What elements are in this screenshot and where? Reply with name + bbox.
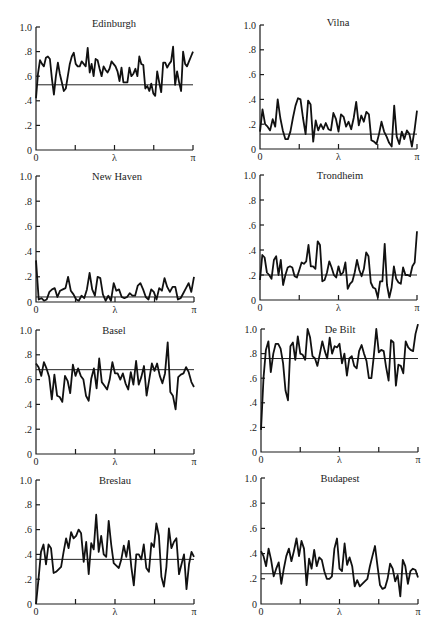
y-tick-label: .4 xyxy=(250,397,258,408)
y-tick-label: .2 xyxy=(250,573,258,584)
y-tick-label: .6 xyxy=(25,221,33,232)
x-tick-label: π xyxy=(191,304,196,315)
panel-new-haven: New Haven 0.2.4.6.81.00λπ xyxy=(20,171,197,316)
x-tick-label: 0 xyxy=(258,151,263,162)
y-tick-label: .4 xyxy=(249,94,257,105)
x-tick-label: 0 xyxy=(34,606,39,617)
data-series-line xyxy=(36,47,193,99)
y-tick-label: .4 xyxy=(25,399,33,410)
x-tick-label: λ xyxy=(337,454,342,465)
y-tick-label: .4 xyxy=(25,95,33,106)
y-tick-label: 1.0 xyxy=(244,20,257,31)
y-tick-label: .2 xyxy=(25,120,33,131)
y-tick-label: 0 xyxy=(27,599,32,610)
y-tick-label: 1.0 xyxy=(245,473,258,484)
y-tick-label: .6 xyxy=(249,69,257,80)
panel-basel: Basel 0.2.4.6.81.00λπ xyxy=(20,325,197,468)
x-tick-label: 0 xyxy=(258,302,263,313)
panel-title: Breslau xyxy=(99,475,132,486)
x-tick-label: 0 xyxy=(34,152,39,163)
y-tick-label: 0 xyxy=(252,447,257,458)
x-tick-label: λ xyxy=(337,606,342,617)
y-tick-label: .4 xyxy=(25,246,33,257)
panel-budapest: Budapest 0.2.4.6.81.00λπ xyxy=(245,473,421,618)
y-tick-label: .8 xyxy=(249,44,257,55)
y-tick-label: 1.0 xyxy=(244,170,257,181)
panel-title: Vilna xyxy=(327,17,350,28)
y-tick-label: .2 xyxy=(249,119,257,130)
data-series-line xyxy=(261,324,418,430)
x-tick-label: π xyxy=(415,606,420,617)
x-tick-label: π xyxy=(414,302,419,313)
x-tick-label: 0 xyxy=(34,456,39,467)
data-series-line xyxy=(260,98,417,146)
y-tick-label: .8 xyxy=(250,348,258,359)
y-tick-label: 0 xyxy=(252,599,257,610)
y-tick-label: .8 xyxy=(25,196,33,207)
axes xyxy=(261,478,418,604)
y-tick-label: 1.0 xyxy=(20,475,33,486)
x-tick-label: λ xyxy=(336,302,341,313)
data-series-line xyxy=(260,231,417,297)
x-tick-label: π xyxy=(191,456,196,467)
data-series-line xyxy=(36,342,194,409)
panel-title: Edinburgh xyxy=(92,18,137,29)
data-series-line xyxy=(36,260,194,300)
y-tick-label: 1.0 xyxy=(245,324,258,335)
y-tick-label: .2 xyxy=(250,422,258,433)
data-series-line xyxy=(261,539,418,597)
y-tick-label: .2 xyxy=(25,424,33,435)
y-tick-label: 0 xyxy=(251,144,256,155)
y-tick-label: .6 xyxy=(249,220,257,231)
y-tick-label: .6 xyxy=(250,523,258,534)
x-tick-label: 0 xyxy=(259,606,264,617)
panel-title: Trondheim xyxy=(317,170,363,181)
y-tick-label: .6 xyxy=(25,374,33,385)
x-tick-label: λ xyxy=(113,456,118,467)
y-tick-label: 1.0 xyxy=(20,171,33,182)
panel-breslau: Breslau 0.2.4.6.81.00λπ xyxy=(20,475,197,618)
y-tick-label: 0 xyxy=(27,449,32,460)
x-tick-label: π xyxy=(414,151,419,162)
y-tick-label: .4 xyxy=(250,548,258,559)
x-tick-label: 0 xyxy=(34,304,39,315)
panel-title: Budapest xyxy=(320,473,359,484)
y-tick-label: .8 xyxy=(25,349,33,360)
y-tick-label: 0 xyxy=(251,295,256,306)
panel-trondheim: Trondheim 0.2.4.6.81.00λπ xyxy=(244,170,420,314)
panel-de-bilt: De Bilt 0.2.4.6.81.00λπ xyxy=(245,324,421,466)
y-tick-label: 1.0 xyxy=(20,22,33,33)
y-tick-label: .2 xyxy=(25,574,33,585)
x-tick-label: λ xyxy=(336,151,341,162)
x-tick-label: λ xyxy=(113,304,118,315)
y-tick-label: .8 xyxy=(25,499,33,510)
y-tick-label: 0 xyxy=(27,145,32,156)
panel-edinburgh: Edinburgh 0.2.4.6.81.00λπ xyxy=(20,18,196,163)
y-tick-label: .2 xyxy=(25,271,33,282)
panel-title: De Bilt xyxy=(325,324,356,335)
y-tick-label: .8 xyxy=(25,46,33,57)
x-tick-label: λ xyxy=(112,152,117,163)
axes xyxy=(36,27,193,150)
y-tick-label: 1.0 xyxy=(20,325,33,336)
y-tick-label: .4 xyxy=(25,549,33,560)
x-tick-label: π xyxy=(190,152,195,163)
y-tick-label: .6 xyxy=(250,373,258,384)
y-tick-label: 0 xyxy=(27,297,32,308)
y-tick-label: .6 xyxy=(25,524,33,535)
x-tick-label: λ xyxy=(113,606,118,617)
axes xyxy=(36,176,194,302)
x-tick-label: 0 xyxy=(259,454,264,465)
panel-title: New Haven xyxy=(92,171,143,182)
x-tick-label: π xyxy=(415,454,420,465)
panel-title: Basel xyxy=(102,325,125,336)
y-tick-label: .4 xyxy=(249,245,257,256)
y-tick-label: .8 xyxy=(249,195,257,206)
x-tick-label: π xyxy=(191,606,196,617)
y-tick-label: .6 xyxy=(25,71,33,82)
panel-vilna: Vilna 0.2.4.6.81.00λπ xyxy=(244,17,420,162)
y-tick-label: .8 xyxy=(250,498,258,509)
y-tick-label: .2 xyxy=(249,270,257,281)
figure: Edinburgh 0.2.4.6.81.00λπ Vilna 0.2.4.6.… xyxy=(0,0,442,637)
